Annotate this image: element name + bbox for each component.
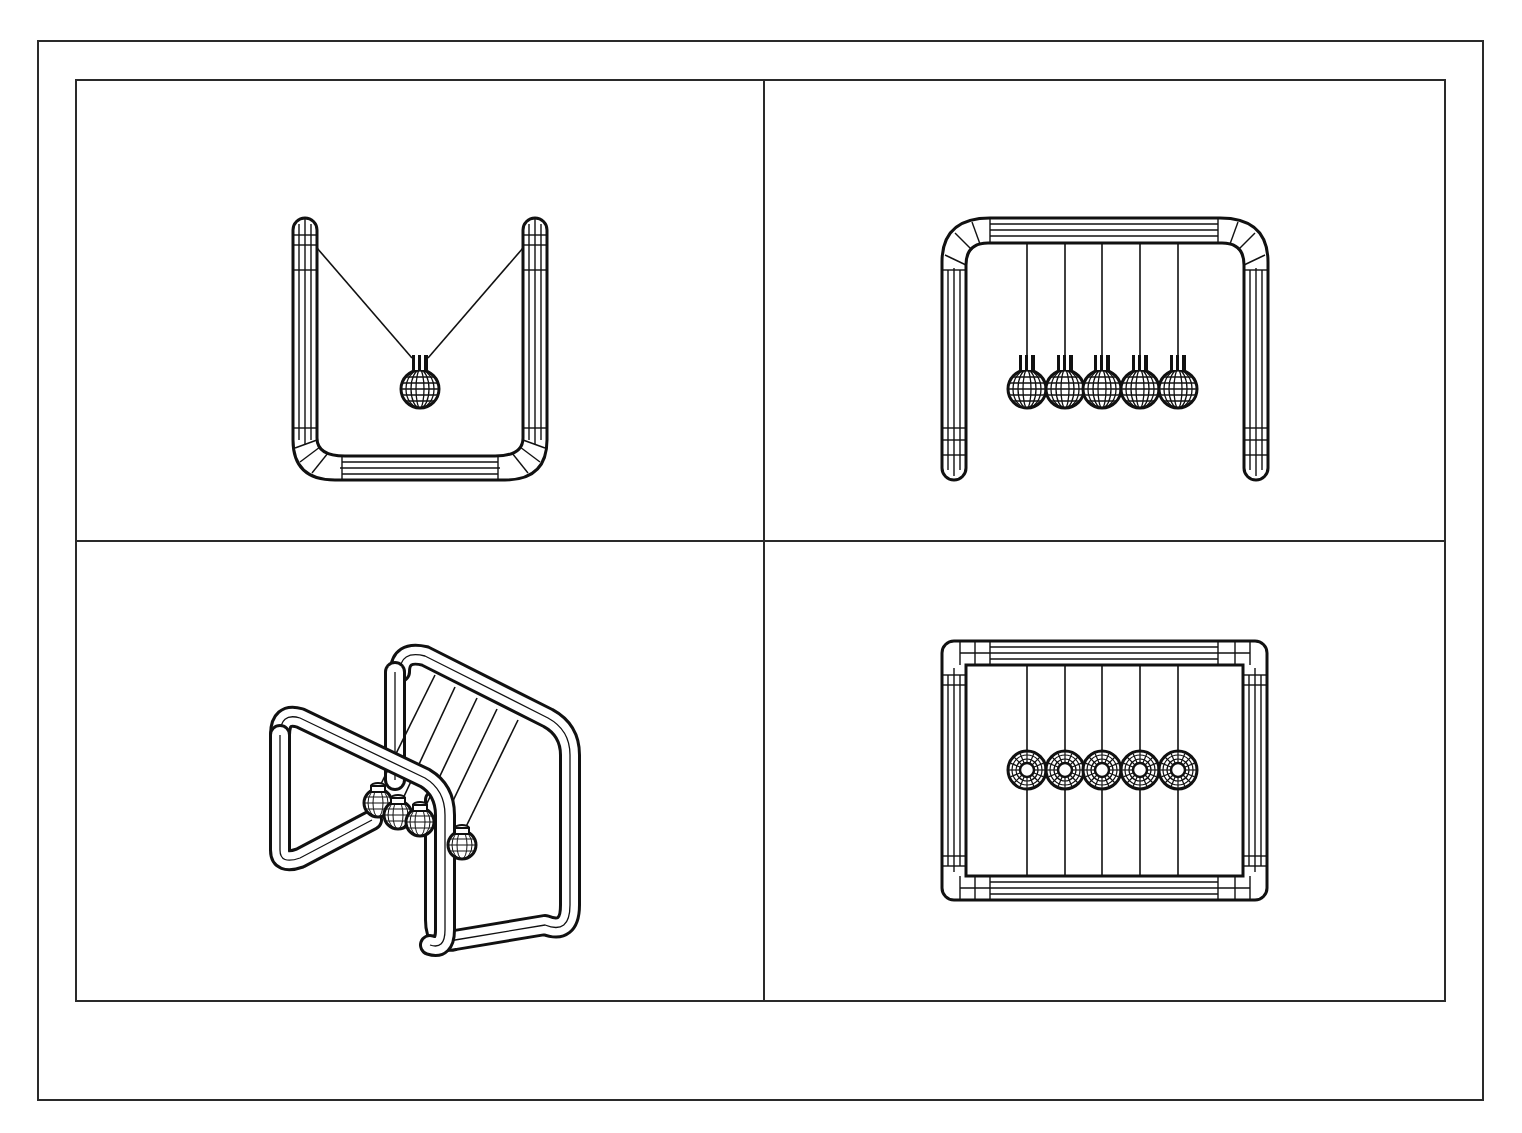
top-ball-5 xyxy=(1159,751,1197,789)
front-view xyxy=(942,218,1268,480)
top-ball-4 xyxy=(1121,751,1159,789)
front-ball-4 xyxy=(1121,355,1159,408)
front-strings xyxy=(1027,243,1178,356)
top-ball-1 xyxy=(1008,751,1046,789)
front-frame xyxy=(942,218,1268,480)
iso-back-frame xyxy=(400,655,570,941)
front-ball-1 xyxy=(1008,355,1046,408)
front-ball-3 xyxy=(1083,355,1121,408)
side-string-left xyxy=(317,248,412,358)
front-frame-hatching xyxy=(942,218,1268,476)
side-view xyxy=(293,218,547,480)
side-frame-hatching xyxy=(293,219,547,480)
side-string-right xyxy=(428,248,523,358)
outer-border xyxy=(38,41,1483,1100)
front-ball-5 xyxy=(1159,355,1197,408)
side-frame xyxy=(293,218,547,480)
isometric-view xyxy=(280,655,570,946)
top-ball-2 xyxy=(1046,751,1084,789)
top-view xyxy=(942,641,1267,900)
drawing-sheet xyxy=(0,0,1522,1133)
top-ball-3 xyxy=(1083,751,1121,789)
front-ball-2 xyxy=(1046,355,1084,408)
side-ball xyxy=(401,355,439,408)
